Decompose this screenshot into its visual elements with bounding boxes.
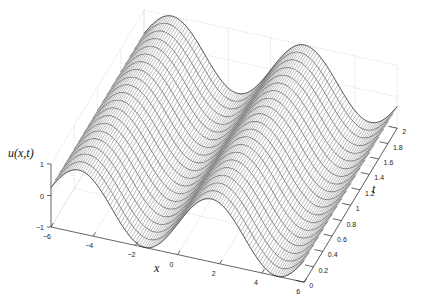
- t-tick: [361, 173, 369, 175]
- z-tick-label: 0: [40, 193, 44, 200]
- x-axis-label: x: [153, 261, 160, 275]
- t-tick-label: 1.4: [374, 174, 384, 181]
- t-tick: [296, 280, 304, 282]
- t-tick: [314, 250, 322, 252]
- x-tick: [220, 260, 222, 264]
- t-tick-label: 0.8: [346, 221, 356, 228]
- x-tick: [93, 232, 95, 236]
- t-tick-label: 0.4: [328, 251, 338, 258]
- t-tick: [305, 265, 313, 267]
- t-axis-label: t: [372, 182, 376, 196]
- z-tick-label: 1: [40, 161, 44, 168]
- x-tick-label: 6: [296, 288, 300, 295]
- t-tick-label: 0: [309, 282, 313, 289]
- t-tick-label: 0.2: [319, 267, 329, 274]
- t-tick: [389, 126, 397, 128]
- t-tick: [370, 157, 378, 159]
- t-tick-label: 1.6: [384, 159, 394, 166]
- x-tick: [262, 269, 264, 273]
- x-tick-label: −2: [127, 251, 135, 258]
- x-tick-label: 0: [170, 261, 174, 268]
- x-tick-label: 2: [212, 270, 216, 277]
- x-tick-label: 4: [254, 279, 258, 286]
- t-tick: [379, 142, 387, 144]
- z-axis-label: u(x,t): [8, 146, 34, 160]
- t-tick: [352, 188, 360, 190]
- x-tick: [178, 251, 180, 255]
- surface-plot: −6−4−2024600.20.40.60.811.21.41.61.82−10…: [0, 0, 428, 306]
- t-tick-label: 1: [356, 205, 360, 212]
- t-tick-label: 1.8: [393, 144, 403, 151]
- t-tick: [333, 219, 341, 221]
- t-tick: [342, 203, 350, 205]
- x-tick-label: −6: [43, 233, 51, 240]
- x-tick-label: −4: [85, 242, 93, 249]
- z-tick-label: −1: [36, 224, 44, 231]
- t-tick: [324, 234, 332, 236]
- t-tick-label: 2: [402, 128, 406, 135]
- t-tick-label: 0.6: [337, 236, 347, 243]
